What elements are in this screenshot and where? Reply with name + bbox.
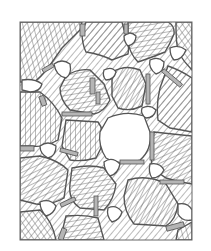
grain-boundary [90,78,95,94]
grain-boundary [20,146,34,151]
grains-layer [20,22,192,241]
grain-boundary [80,24,85,36]
grain-boundary [124,24,128,34]
grain-boundary [120,160,144,164]
grain-boundary [150,132,154,160]
grain-boundary [94,196,98,216]
grain-boundary [146,74,150,104]
grain-boundary [62,112,92,116]
grain-microstructure-diagram [0,0,211,251]
white-grain [100,113,151,162]
grain-boundary [160,180,184,184]
triple-junction-pocket [178,204,192,221]
grain-boundary [96,92,100,104]
grain [60,215,104,240]
grain [112,67,146,109]
grain [62,120,104,161]
